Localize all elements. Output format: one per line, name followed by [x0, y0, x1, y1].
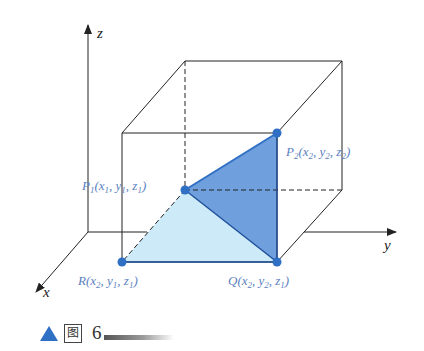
- point-p1: [181, 186, 190, 195]
- z-axis-label: z: [96, 25, 103, 41]
- label-r: R(x2, y1, z1): [77, 273, 138, 290]
- caption-decorative-bar: [104, 335, 174, 340]
- label-p2: P2(x2, y2, z2): [285, 144, 350, 161]
- figure-caption: 图 6: [40, 322, 174, 344]
- point-r: [118, 258, 127, 267]
- cube-coordinate-diagram: z y x P1(x1, y1, z1) P2(x2, y2, z2) R(x2…: [0, 0, 424, 351]
- point-q: [273, 258, 282, 267]
- caption-figure-number: 6: [92, 322, 102, 344]
- label-q: Q(x2, y2, z1): [228, 273, 289, 290]
- triangle-up-icon: [40, 326, 58, 341]
- y-axis-label: y: [382, 237, 391, 253]
- x-axis-label: x: [42, 284, 50, 300]
- label-p1: P1(x1, y1, z1): [81, 178, 146, 195]
- point-p2: [273, 129, 282, 138]
- caption-figure-word: 图: [64, 324, 82, 343]
